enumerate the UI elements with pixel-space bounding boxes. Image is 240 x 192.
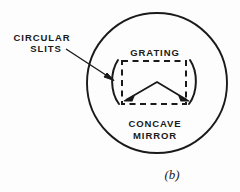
circular-slit-arc-right xyxy=(189,60,196,104)
concave-mirror-label-line1: CONCAVE xyxy=(128,118,181,129)
light-ray-path xyxy=(126,82,187,100)
optical-diagram-figure: CIRCULAR SLITS GRATING CONCAVE MIRROR (b… xyxy=(0,0,240,192)
ray-arrowhead-right xyxy=(179,96,189,101)
circular-slits-leader-line xyxy=(66,49,112,79)
figure-caption: (b) xyxy=(164,167,179,182)
circular-slits-label-line2: SLITS xyxy=(30,43,61,54)
diagram-canvas: CIRCULAR SLITS GRATING CONCAVE MIRROR (b… xyxy=(0,0,240,192)
circular-slits-label-line1: CIRCULAR xyxy=(14,32,71,43)
grating-label: GRATING xyxy=(130,47,179,58)
concave-mirror-label-line2: MIRROR xyxy=(133,130,177,141)
ray-arrowhead-left xyxy=(124,96,134,101)
circular-slit-arc-left xyxy=(112,60,119,104)
